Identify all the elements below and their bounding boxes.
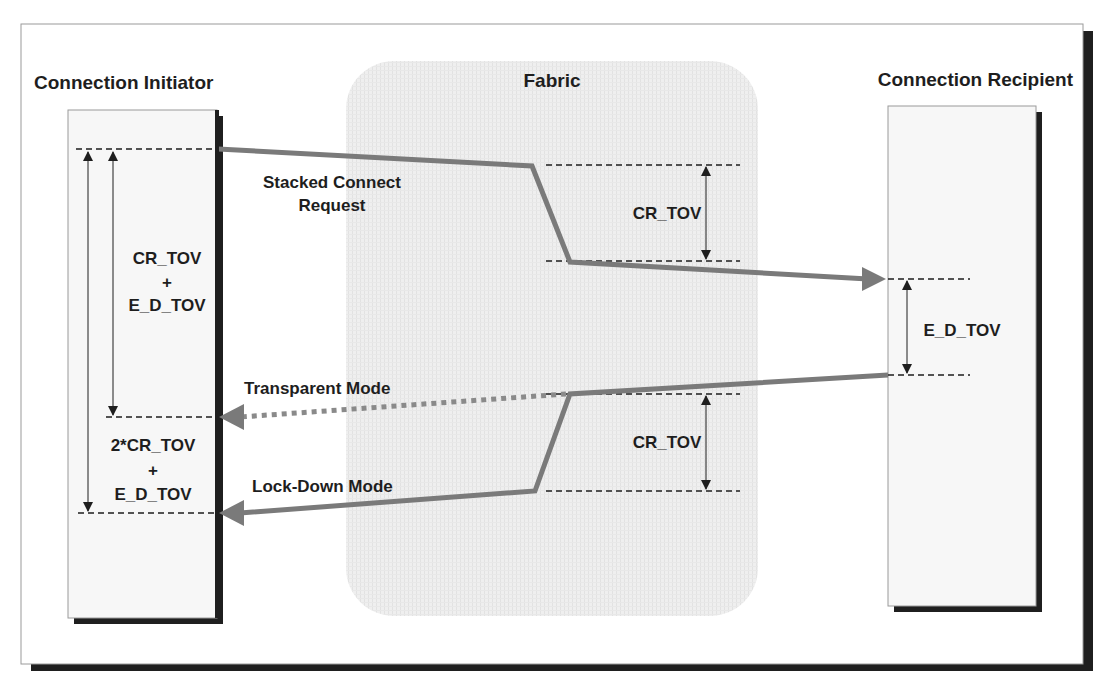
initiator-node-box	[68, 110, 217, 618]
initiator-interval2-line3: E_D_TOV	[114, 485, 192, 504]
fabric-title: Fabric	[523, 70, 580, 91]
initiator-interval1-line3: E_D_TOV	[128, 296, 206, 315]
stacked-connect-label-line2: Request	[298, 196, 365, 215]
recipient-title: Connection Recipient	[878, 69, 1074, 90]
recipient-node-box	[888, 106, 1036, 606]
recipient-node	[888, 106, 1042, 612]
initiator-interval2-line2: +	[148, 461, 158, 480]
transparent-mode-label: Transparent Mode	[244, 379, 390, 398]
stacked-connect-label-line1: Stacked Connect	[263, 173, 401, 192]
initiator-interval1-line1: CR_TOV	[133, 249, 202, 268]
initiator-title: Connection Initiator	[34, 72, 214, 93]
fabric-timing-diagram: Connection Initiator Fabric Connection R…	[0, 0, 1108, 682]
initiator-interval2-line1: 2*CR_TOV	[111, 436, 196, 455]
fabric-bottom-cr-tov-label: CR_TOV	[633, 433, 702, 452]
fabric-region	[346, 61, 758, 616]
initiator-node	[68, 110, 223, 624]
fabric-top-cr-tov-label: CR_TOV	[633, 204, 702, 223]
initiator-interval1-line2: +	[162, 273, 172, 292]
recipient-ed-tov-label: E_D_TOV	[923, 321, 1001, 340]
lockdown-mode-label: Lock-Down Mode	[252, 477, 393, 496]
